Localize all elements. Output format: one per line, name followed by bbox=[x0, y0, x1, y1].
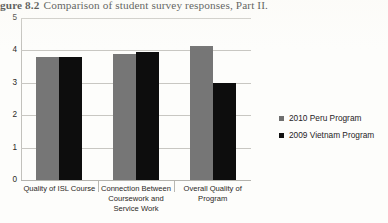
bar bbox=[190, 46, 213, 180]
x-axis-category-labels: Quality of ISL CourseConnection Between … bbox=[21, 184, 251, 223]
figure-caption-text: Comparison of student survey responses, … bbox=[44, 0, 268, 11]
y-axis-tick-label: 2 bbox=[12, 111, 17, 119]
gridline bbox=[21, 18, 251, 19]
category-separator-tick bbox=[174, 181, 175, 192]
legend-label: 2009 Vietnam Program bbox=[289, 131, 374, 139]
legend-label: 2010 Peru Program bbox=[289, 114, 361, 122]
bar bbox=[113, 54, 136, 180]
gridline bbox=[21, 180, 251, 181]
y-axis-tick-label: 0 bbox=[12, 176, 17, 184]
y-axis-tick-label: 3 bbox=[12, 79, 17, 87]
figure-caption: gure 8.2Comparison of student survey res… bbox=[0, 0, 388, 13]
bar bbox=[59, 57, 82, 180]
x-axis-category-label: Quality of ISL Course bbox=[21, 184, 98, 194]
legend-swatch-icon bbox=[279, 116, 284, 121]
figure-screenshot: gure 8.2Comparison of student survey res… bbox=[0, 0, 388, 223]
chart-legend: 2010 Peru Program 2009 Vietnam Program bbox=[279, 112, 385, 146]
legend-swatch-icon bbox=[279, 133, 284, 138]
legend-item: 2009 Vietnam Program bbox=[279, 129, 385, 142]
y-axis-tick-label: 5 bbox=[12, 14, 17, 22]
legend-item: 2010 Peru Program bbox=[279, 112, 385, 125]
bar bbox=[36, 57, 59, 180]
y-axis-tick-label: 1 bbox=[12, 143, 17, 151]
x-axis-category-label: Connection Between Coursework and Servic… bbox=[98, 184, 175, 215]
plot-area: 012345 bbox=[21, 18, 251, 180]
bar bbox=[136, 52, 159, 180]
figure-number: gure 8.2 bbox=[0, 0, 40, 11]
bar bbox=[213, 83, 236, 180]
x-axis-category-label: Overall Quality of Program bbox=[174, 184, 251, 204]
y-axis-tick-label: 4 bbox=[12, 46, 17, 54]
category-separator-tick bbox=[98, 181, 99, 192]
